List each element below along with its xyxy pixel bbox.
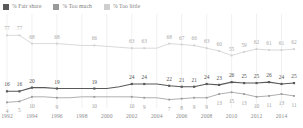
x-axis-tick-1998: 1998 xyxy=(76,112,88,120)
data-point-marker xyxy=(31,87,33,89)
data-label-too-much-1996: 9 xyxy=(56,104,59,110)
data-point-marker xyxy=(255,82,257,84)
data-point-marker xyxy=(6,101,8,103)
data-point-marker xyxy=(143,83,145,85)
data-point-marker xyxy=(193,97,195,99)
data-point-marker xyxy=(181,44,183,46)
data-point-marker xyxy=(168,85,170,87)
data-label-fair-share-2011: 25 xyxy=(241,73,246,79)
data-label-too-much-2009: 13 xyxy=(216,100,221,106)
data-point-marker xyxy=(168,99,170,101)
data-label-fair-share-2003: 24 xyxy=(142,74,147,80)
data-label-too-much-2002: 10 xyxy=(129,103,134,109)
data-point-marker xyxy=(231,55,233,57)
data-point-marker xyxy=(6,90,8,92)
data-point-marker xyxy=(143,47,145,49)
data-label-too-little-2007: 66 xyxy=(191,35,196,41)
data-point-marker xyxy=(218,50,220,52)
data-label-too-little-2013: 61 xyxy=(266,40,271,46)
data-point-marker xyxy=(19,34,21,36)
x-axis-tick-2004: 2004 xyxy=(151,112,163,120)
x-axis: 1992199419961998200020022004200620082010… xyxy=(0,110,303,124)
data-label-fair-share-2013: 26 xyxy=(266,72,271,78)
data-label-too-little-1992: 77 xyxy=(4,25,9,31)
x-axis-tick-2002: 2002 xyxy=(126,112,138,120)
data-point-marker xyxy=(268,81,270,83)
data-point-marker xyxy=(280,83,282,85)
x-axis-tick-2006: 2006 xyxy=(176,112,188,120)
legend-label-much: % Too much xyxy=(62,3,91,10)
data-point-marker xyxy=(131,96,133,98)
data-point-marker xyxy=(193,45,195,47)
data-point-marker xyxy=(243,93,245,95)
data-label-too-much-1999: 10 xyxy=(92,103,97,109)
legend-swatch-much xyxy=(53,4,59,10)
data-point-marker xyxy=(243,51,245,53)
data-point-marker xyxy=(206,47,208,49)
data-label-too-little-2011: 59 xyxy=(241,42,246,48)
data-point-marker xyxy=(131,83,133,85)
data-label-too-little-1999: 66 xyxy=(92,35,97,41)
series-line xyxy=(7,92,294,102)
legend-label-little: % Too little xyxy=(113,3,140,10)
data-label-too-much-2007: 9 xyxy=(193,104,196,110)
data-point-marker xyxy=(93,87,95,89)
x-axis-tick-2008: 2008 xyxy=(201,112,213,120)
data-point-marker xyxy=(31,96,33,98)
chart-container: % Fair share% Too much% Too little 16162… xyxy=(0,0,303,128)
data-point-marker xyxy=(131,47,133,49)
data-label-fair-share-2007: 21 xyxy=(191,77,196,83)
data-point-marker xyxy=(56,87,58,89)
data-point-marker xyxy=(256,96,258,98)
data-label-too-little-1996: 68 xyxy=(54,34,59,40)
data-point-marker xyxy=(231,81,233,83)
data-label-too-much-2013: 11 xyxy=(266,102,271,108)
data-point-marker xyxy=(6,34,8,36)
series-line xyxy=(7,35,294,55)
data-label-too-little-2002: 63 xyxy=(129,38,134,44)
line-chart-svg xyxy=(0,12,303,110)
data-label-too-little-2008: 63 xyxy=(204,38,209,44)
data-label-too-much-2008: 9 xyxy=(205,104,208,110)
data-point-marker xyxy=(193,86,195,88)
x-axis-tick-2010: 2010 xyxy=(226,112,238,120)
data-label-too-little-2006: 67 xyxy=(179,35,184,41)
data-point-marker xyxy=(206,83,208,85)
data-label-fair-share-2014: 24 xyxy=(279,74,284,80)
x-axis-tick-2014: 2014 xyxy=(276,112,288,120)
series-fair-share xyxy=(6,81,295,92)
data-point-marker xyxy=(281,93,283,95)
legend-item-fair[interactable]: % Fair share xyxy=(3,3,41,10)
data-label-too-little-2003: 63 xyxy=(142,38,147,44)
data-point-marker xyxy=(206,97,208,99)
x-axis-tick-1992: 1992 xyxy=(1,112,13,120)
data-label-too-little-2015: 62 xyxy=(291,39,296,45)
data-label-fair-share-2015: 25 xyxy=(291,73,296,79)
data-label-fair-share-1994: 20 xyxy=(29,78,34,84)
series-line xyxy=(7,82,294,91)
data-label-fair-share-2008: 24 xyxy=(204,74,209,80)
data-label-too-little-2012: 62 xyxy=(254,39,259,45)
legend-swatch-fair xyxy=(3,4,9,10)
series-too-little xyxy=(6,34,295,56)
data-point-marker xyxy=(293,82,295,84)
data-label-fair-share-2006: 21 xyxy=(179,77,184,83)
data-point-marker xyxy=(56,43,58,45)
data-label-too-much-2014: 13 xyxy=(279,100,284,106)
data-label-fair-share-2002: 24 xyxy=(129,74,134,80)
data-label-fair-share-1996: 19 xyxy=(54,79,59,85)
x-axis-tick-2012: 2012 xyxy=(251,112,263,120)
data-label-fair-share-1992: 16 xyxy=(4,81,9,87)
data-label-fair-share-2012: 25 xyxy=(254,73,259,79)
data-point-marker xyxy=(218,93,220,95)
legend-item-much[interactable]: % Too much xyxy=(53,3,91,10)
data-point-marker xyxy=(93,45,95,47)
data-label-too-little-1994: 68 xyxy=(29,34,34,40)
data-label-too-much-2010: 15 xyxy=(229,98,234,104)
legend-label-fair: % Fair share xyxy=(12,3,41,10)
data-point-marker xyxy=(293,95,295,97)
data-label-too-much-2015: 11 xyxy=(291,102,296,108)
data-point-marker xyxy=(281,49,283,51)
data-label-too-little-2009: 60 xyxy=(216,41,221,47)
legend-item-little[interactable]: % Too little xyxy=(104,3,140,10)
